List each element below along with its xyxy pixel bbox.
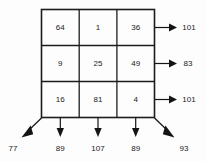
cell-r3c1: 16: [56, 95, 65, 104]
column-3-arrow-head: [132, 128, 139, 137]
cell-r2c1: 9: [58, 59, 63, 68]
figure-canvas: 64 1 36 9 25 49 16 81 4 101 83 101 89 10…: [0, 0, 207, 162]
cell-r2c2: 25: [94, 59, 103, 68]
row-sum-2: 83: [184, 59, 193, 68]
cell-r2c3: 49: [131, 59, 140, 68]
anti-diagonal-sum: 77: [9, 144, 18, 153]
column-2-arrow-head: [94, 128, 101, 137]
row-1-arrow-head: [169, 23, 177, 31]
column-1-arrow-head: [57, 128, 64, 137]
cell-r1c3: 36: [131, 23, 140, 32]
cell-r1c2: 1: [96, 23, 101, 32]
row-3-arrow-head: [169, 95, 177, 103]
row-2-arrow-head: [169, 59, 177, 67]
main-diagonal-sum: 93: [180, 144, 189, 153]
cell-r3c2: 81: [94, 95, 103, 104]
column-sum-1: 89: [56, 144, 65, 153]
column-sum-3: 89: [131, 144, 140, 153]
magic-square-figure: 64 1 36 9 25 49 16 81 4 101 83 101 89 10…: [0, 0, 207, 162]
row-sum-1: 101: [182, 23, 196, 32]
cell-r1c1: 64: [56, 23, 65, 32]
cell-r3c3: 4: [133, 95, 138, 104]
column-sum-2: 107: [91, 144, 105, 153]
row-sum-3: 101: [182, 95, 196, 104]
